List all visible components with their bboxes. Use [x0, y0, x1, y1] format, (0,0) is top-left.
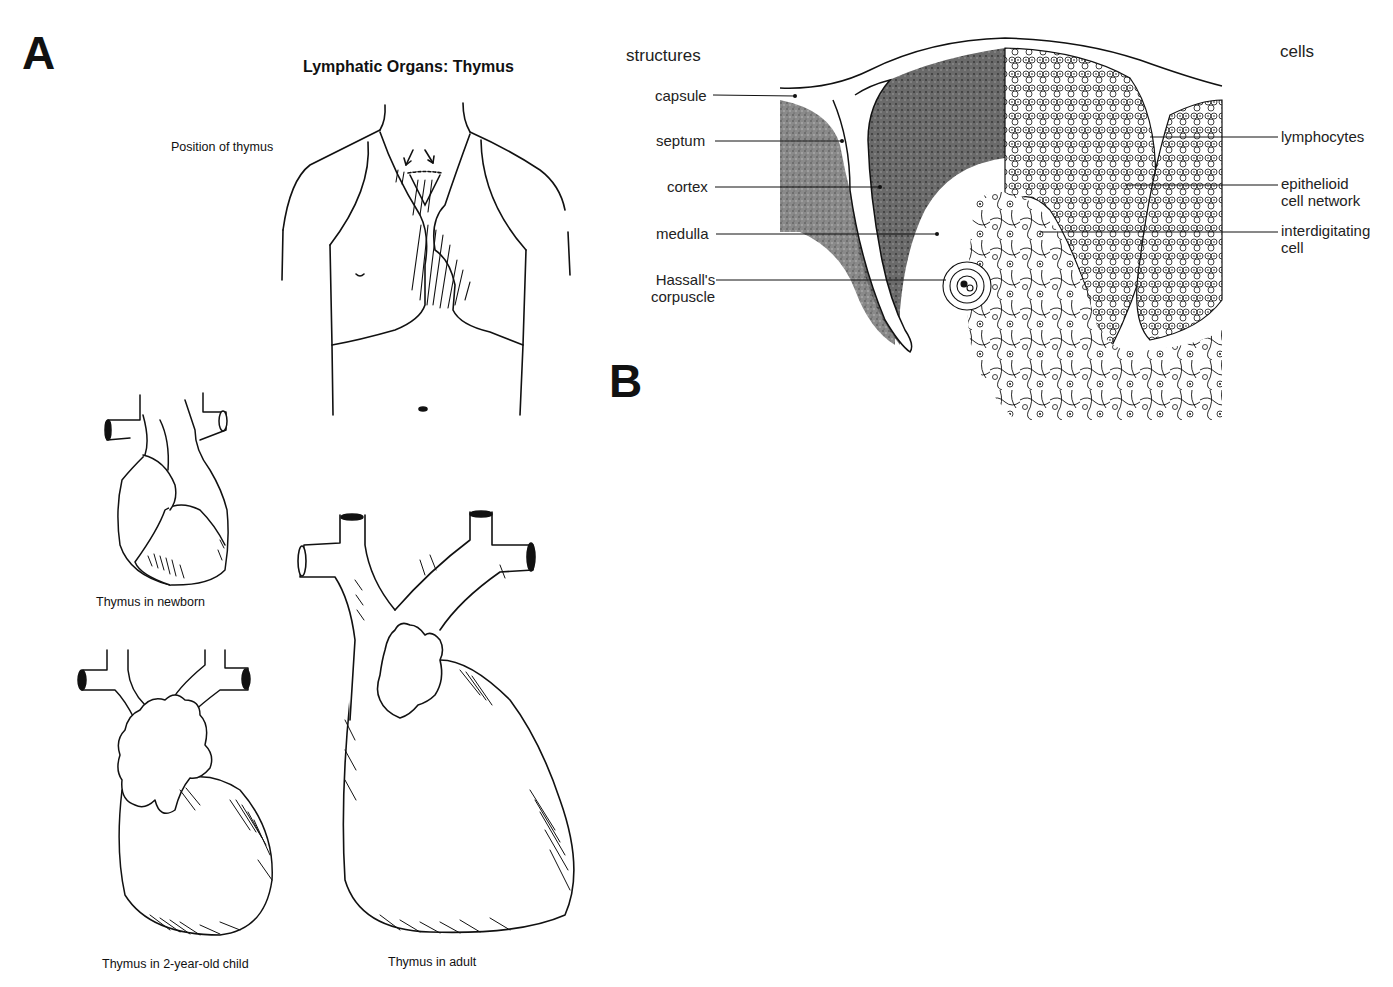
caption-newborn: Thymus in newborn [96, 595, 205, 609]
cells-heading: cells [1280, 42, 1314, 62]
position-of-thymus-label: Position of thymus [171, 140, 273, 154]
label-hassalls-line2: corpuscle [651, 288, 715, 305]
label-epithelioid-line1: epithelioid [1281, 175, 1360, 192]
panel-a-title: Lymphatic Organs: Thymus [303, 58, 514, 76]
label-hassalls-corpuscle: Hassall's corpuscle [651, 271, 715, 305]
caption-child: Thymus in 2-year-old child [102, 957, 249, 971]
structures-heading: structures [626, 46, 701, 66]
panel-b-letter: B [609, 358, 642, 404]
label-hassalls-line1: Hassall's [651, 271, 715, 288]
label-interdigitating-line2: cell [1281, 239, 1370, 256]
caption-adult: Thymus in adult [388, 955, 476, 969]
label-medulla: medulla [656, 225, 709, 242]
label-septum: septum [656, 132, 705, 149]
label-lymphocytes: lymphocytes [1281, 128, 1364, 145]
panel-a-letter: A [22, 30, 55, 76]
label-interdigitating-line1: interdigitating [1281, 222, 1370, 239]
label-epithelioid-cell-network: epithelioid cell network [1281, 175, 1360, 209]
label-cortex: cortex [667, 178, 708, 195]
label-interdigitating-cell: interdigitating cell [1281, 222, 1370, 256]
label-epithelioid-line2: cell network [1281, 192, 1360, 209]
label-capsule: capsule [655, 87, 707, 104]
